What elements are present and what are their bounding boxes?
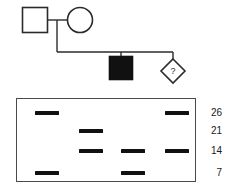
gel-size-label-14: 14 bbox=[200, 146, 222, 156]
gel-band-lane3-14 bbox=[121, 149, 145, 153]
gel-band-lane4-14 bbox=[165, 149, 189, 153]
gel-band-lane2-21 bbox=[79, 129, 103, 133]
gel-band-lane4-26 bbox=[165, 111, 189, 115]
gel-size-label-21: 21 bbox=[200, 126, 222, 136]
gel-electrophoresis-panel: 26 21 14 7 bbox=[0, 94, 226, 192]
gel-band-lane3-7 bbox=[121, 171, 145, 175]
gel-size-labels: 26 21 14 7 bbox=[200, 98, 226, 182]
gel-box bbox=[16, 98, 196, 182]
gel-band-lane1-26 bbox=[35, 111, 59, 115]
gel-band-lane1-7 bbox=[35, 171, 59, 175]
pedigree-mother-circle bbox=[68, 8, 93, 33]
unknown-sex-question-mark: ? bbox=[170, 66, 175, 76]
gel-band-lane2-14 bbox=[79, 149, 103, 153]
pedigree-father-square bbox=[23, 8, 48, 33]
pedigree-gel-figure: ? 26 21 14 7 bbox=[0, 0, 226, 192]
gel-size-label-7: 7 bbox=[200, 168, 222, 178]
pedigree-diagram: ? bbox=[0, 0, 226, 94]
pedigree-son-square-affected bbox=[110, 57, 133, 80]
gel-size-label-26: 26 bbox=[200, 108, 222, 118]
